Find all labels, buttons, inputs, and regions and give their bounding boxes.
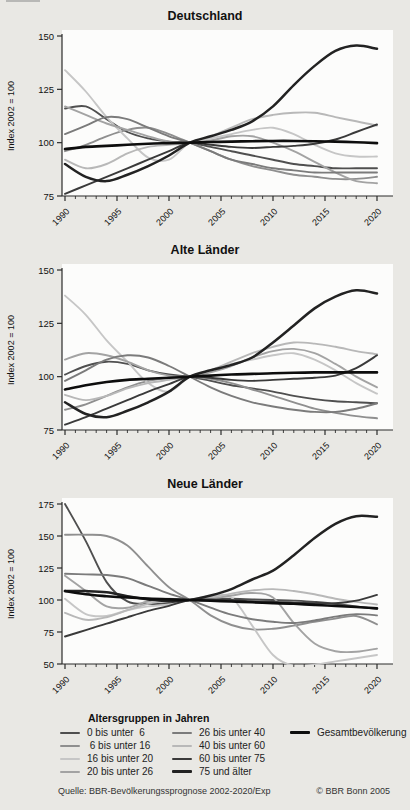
svg-text:1995: 1995 — [102, 206, 123, 227]
scan-artifact — [6, 0, 40, 2]
svg-text:2015: 2015 — [310, 674, 331, 695]
legend-swatch-icon — [60, 771, 80, 773]
legend-item-label: 20 bis unter 26 — [87, 765, 153, 778]
legend-item-label: 6 bis unter 16 — [87, 739, 150, 752]
line-chart-deutschland: 75100125150Index 2002 = 1001990199520002… — [0, 24, 410, 236]
chart-block-neue-laender: Neue Länder 5075100125150175Index 2002 =… — [0, 476, 410, 704]
legend-item-label: Gesamtbevölkerung — [317, 726, 407, 739]
svg-text:125: 125 — [38, 563, 54, 574]
legend-item: 0 bis unter 6 — [60, 726, 172, 739]
legend-item: 40 bis unter 60 — [172, 739, 290, 752]
svg-text:2005: 2005 — [206, 674, 227, 695]
svg-text:75: 75 — [43, 425, 54, 436]
footer-copyright: © BBR Bonn 2005 — [316, 786, 390, 796]
svg-text:150: 150 — [38, 265, 54, 276]
legend-swatch-icon — [172, 770, 192, 773]
svg-text:2000: 2000 — [154, 674, 175, 695]
svg-text:2020: 2020 — [362, 206, 383, 227]
svg-text:2020: 2020 — [362, 440, 383, 461]
legend-column: Gesamtbevölkerung — [290, 726, 407, 739]
legend-title: Altersgruppen in Jahren — [60, 710, 410, 726]
svg-text:2020: 2020 — [362, 674, 383, 695]
chart-title-alte-laender: Alte Länder — [0, 242, 410, 258]
line-chart-alte-laender: 75100125150Index 2002 = 1001990199520002… — [0, 258, 410, 470]
svg-text:2015: 2015 — [310, 206, 331, 227]
svg-text:2000: 2000 — [154, 206, 175, 227]
svg-text:125: 125 — [38, 318, 54, 329]
legend-item: 16 bis unter 20 — [60, 752, 172, 765]
svg-text:1990: 1990 — [50, 206, 71, 227]
legend-swatch-icon — [172, 758, 192, 760]
svg-text:125: 125 — [38, 84, 54, 95]
legend-column: 0 bis unter 6 6 bis unter 1616 bis unter… — [60, 726, 172, 778]
legend-item-label: 40 bis unter 60 — [199, 739, 265, 752]
legend-item: Gesamtbevölkerung — [290, 726, 407, 739]
legend-item-label: 26 bis unter 40 — [199, 726, 265, 739]
svg-text:100: 100 — [38, 595, 54, 606]
legend-columns: 0 bis unter 6 6 bis unter 1616 bis unter… — [60, 726, 410, 778]
svg-text:150: 150 — [38, 31, 54, 42]
legend-column: 26 bis unter 4040 bis unter 6060 bis unt… — [172, 726, 290, 778]
svg-text:1990: 1990 — [50, 674, 71, 695]
svg-text:2005: 2005 — [206, 440, 227, 461]
svg-text:1995: 1995 — [102, 440, 123, 461]
svg-text:2005: 2005 — [206, 206, 227, 227]
legend-item-label: 60 bis unter 75 — [199, 752, 265, 765]
legend-swatch-icon — [172, 745, 192, 747]
footer-source: Quelle: BBR-Bevölkerungssprognose 2002-2… — [58, 786, 271, 796]
svg-text:100: 100 — [38, 137, 54, 148]
chart-title-deutschland: Deutschland — [0, 8, 410, 24]
legend-swatch-icon — [172, 732, 192, 734]
legend-swatch-icon — [60, 758, 80, 760]
line-chart-neue-laender: 5075100125150175Index 2002 = 10019901995… — [0, 492, 410, 704]
svg-text:2010: 2010 — [258, 206, 279, 227]
svg-text:2015: 2015 — [310, 440, 331, 461]
figure-page: Deutschland 75100125150Index 2002 = 1001… — [0, 0, 410, 796]
svg-text:150: 150 — [38, 531, 54, 542]
legend-swatch-icon — [60, 745, 80, 747]
svg-text:175: 175 — [38, 499, 54, 510]
legend-item: 6 bis unter 16 — [60, 739, 172, 752]
legend-item: 26 bis unter 40 — [172, 726, 290, 739]
svg-text:1990: 1990 — [50, 440, 71, 461]
legend: Altersgruppen in Jahren 0 bis unter 6 6 … — [0, 710, 410, 778]
chart-title-neue-laender: Neue Länder — [0, 476, 410, 492]
svg-text:2010: 2010 — [258, 674, 279, 695]
footer: Quelle: BBR-Bevölkerungssprognose 2002-2… — [0, 786, 410, 796]
chart-block-alte-laender: Alte Länder 75100125150Index 2002 = 1001… — [0, 242, 410, 470]
y-axis-label: Index 2002 = 100 — [6, 81, 16, 151]
legend-item: 60 bis unter 75 — [172, 752, 290, 765]
legend-item: 75 und älter — [172, 765, 290, 778]
legend-item-label: 75 und älter — [199, 765, 252, 778]
chart-block-deutschland: Deutschland 75100125150Index 2002 = 1001… — [0, 8, 410, 236]
legend-swatch-icon — [290, 731, 310, 734]
legend-item: 20 bis unter 26 — [60, 765, 172, 778]
svg-text:75: 75 — [43, 627, 54, 638]
legend-item-label: 16 bis unter 20 — [87, 752, 153, 765]
svg-text:50: 50 — [43, 659, 54, 670]
svg-text:75: 75 — [43, 191, 54, 202]
y-axis-label: Index 2002 = 100 — [6, 315, 16, 385]
legend-item-label: 0 bis unter 6 — [87, 726, 145, 739]
legend-swatch-icon — [60, 732, 80, 734]
svg-text:100: 100 — [38, 371, 54, 382]
svg-text:2000: 2000 — [154, 440, 175, 461]
svg-text:1995: 1995 — [102, 674, 123, 695]
y-axis-label: Index 2002 = 100 — [6, 549, 16, 619]
svg-text:2010: 2010 — [258, 440, 279, 461]
